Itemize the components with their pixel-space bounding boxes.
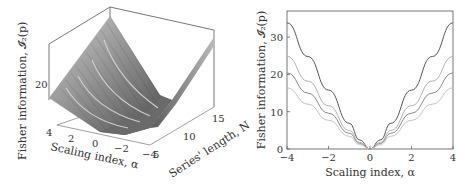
figure: 20 4 2 0 −2 −4 5 10 15 Scaling index, α …	[0, 0, 474, 186]
y-tick-5: 5	[153, 149, 159, 160]
plot-frame	[287, 11, 453, 149]
x-tick-label: 2	[408, 152, 414, 163]
x-tick-label: −2	[321, 152, 336, 163]
y-tick-label: 0	[277, 144, 283, 155]
curve-2	[287, 57, 453, 150]
curve-1	[287, 23, 453, 149]
z-tick-20: 20	[35, 79, 48, 90]
curves	[287, 23, 453, 149]
surface-plot: 20 4 2 0 −2 −4 5 10 15 Scaling index, α …	[16, 7, 253, 181]
y-tick-label: 10	[270, 107, 283, 118]
x-tick-label: 4	[450, 152, 456, 163]
line-plot: −4−2024 0102030 Scaling index, α Fisher …	[255, 11, 456, 179]
y-tick-15: 15	[212, 113, 225, 124]
box-top-frame	[49, 7, 214, 44]
curve-4	[287, 88, 453, 149]
curve-3	[287, 73, 453, 149]
x-tick-4: 4	[46, 127, 52, 138]
x-axis-label: Scaling index, α	[325, 166, 415, 179]
x-tick-0: 0	[92, 138, 98, 149]
x-tick-label: 0	[367, 152, 373, 163]
y-tick-label: 20	[270, 69, 283, 80]
x-tick-2: 2	[68, 133, 74, 144]
y-tick-10: 10	[183, 131, 196, 142]
x-tick-neg2: −2	[114, 143, 129, 154]
y-tick-label: 30	[270, 32, 283, 43]
z-axis-label: Fisher information, 𝓘₂(p)	[16, 22, 29, 160]
y-axis-label: Fisher information, 𝓘₂(p)	[255, 11, 268, 149]
